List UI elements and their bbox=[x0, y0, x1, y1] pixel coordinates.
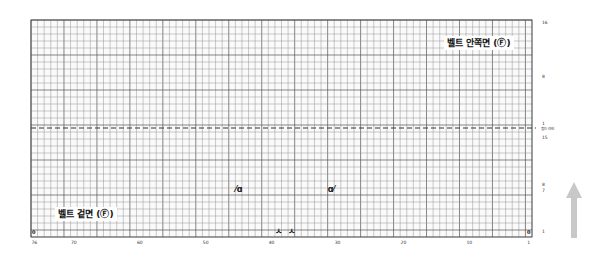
row-label-1-bottom: 1 bbox=[542, 229, 545, 234]
column-label: 76 bbox=[31, 240, 37, 245]
column-label: 30 bbox=[335, 240, 341, 245]
corner-mark-left: 0 bbox=[32, 229, 35, 235]
column-label: 40 bbox=[269, 240, 275, 245]
bind-symbol-b: ㅅ bbox=[288, 228, 295, 236]
row-label-15-bottom: 15 bbox=[542, 135, 548, 140]
column-label: 10 bbox=[467, 240, 473, 245]
row-label-7-bottom: 7 bbox=[542, 188, 545, 193]
section-label-inner: 벨트 안쪽면 (Ⓕ) bbox=[444, 36, 514, 50]
column-label: 60 bbox=[137, 240, 143, 245]
bind-symbol-a: ㅅ bbox=[275, 228, 282, 236]
row-label-8-top: 8 bbox=[542, 74, 545, 79]
column-label: 70 bbox=[71, 240, 77, 245]
section-label-outer: 벨트 겉면 (Ⓕ) bbox=[55, 207, 117, 221]
decrease-left-symbol: ⁄ɑ bbox=[235, 186, 242, 194]
column-label: 50 bbox=[203, 240, 209, 245]
column-label: 20 bbox=[401, 240, 407, 245]
row-label-16: 16 bbox=[542, 20, 548, 25]
fold-line-label: 접는 라인 bbox=[541, 126, 554, 131]
corner-mark-right: 0 bbox=[527, 229, 530, 235]
decrease-right-symbol: ɑ⁄ bbox=[328, 186, 335, 194]
column-label: 1 bbox=[527, 240, 530, 245]
row-label-8-bottom: 8 bbox=[542, 182, 545, 187]
knitting-direction-arrow-icon bbox=[566, 182, 582, 238]
